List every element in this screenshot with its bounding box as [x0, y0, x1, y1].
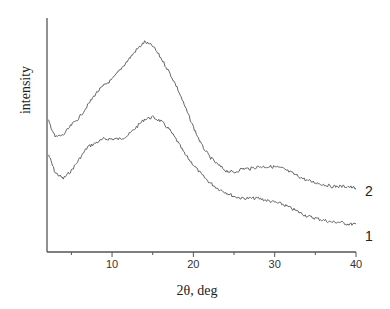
x-axis-ticks [71, 252, 356, 257]
series-2-line [49, 41, 356, 190]
x-axis-label: 2θ, deg [177, 283, 218, 298]
x-tick-label-10: 10 [106, 258, 118, 270]
series-1-label: 1 [365, 228, 373, 244]
series-1-line [49, 116, 356, 226]
x-tick-label-20: 20 [187, 258, 199, 270]
series-2-label: 2 [365, 183, 373, 199]
xrd-chart: 10 20 30 40 2θ, deg intensity 2 1 [0, 0, 390, 309]
x-tick-label-40: 40 [350, 258, 362, 270]
x-tick-label-30: 30 [269, 258, 281, 270]
y-axis-label: intensity [18, 66, 33, 114]
